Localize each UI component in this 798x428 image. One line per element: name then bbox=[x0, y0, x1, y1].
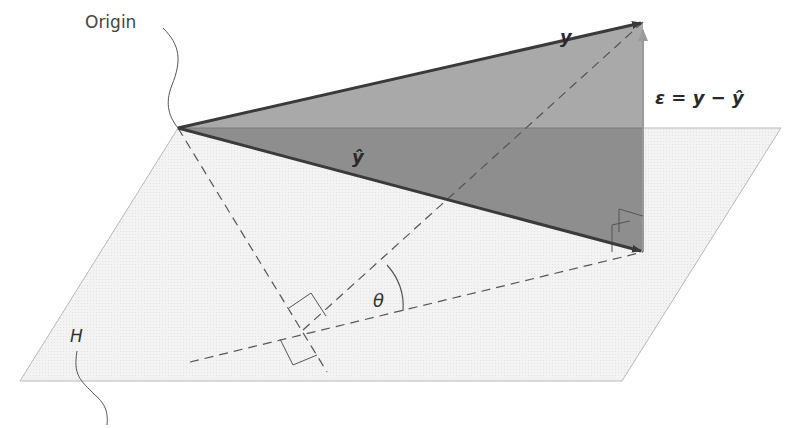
origin-leader bbox=[163, 28, 178, 128]
origin-label: Origin bbox=[85, 12, 136, 32]
diagram-svg bbox=[0, 0, 798, 428]
theta-label: θ bbox=[373, 290, 384, 311]
projection-diagram: Origin y ε = y − ŷ ŷ θ H bbox=[0, 0, 798, 428]
plane-h-label: H bbox=[70, 326, 83, 346]
epsilon-label: ε = y − ŷ bbox=[655, 87, 744, 108]
y-hat-label: ŷ bbox=[352, 146, 364, 167]
y-label: y bbox=[560, 26, 572, 47]
